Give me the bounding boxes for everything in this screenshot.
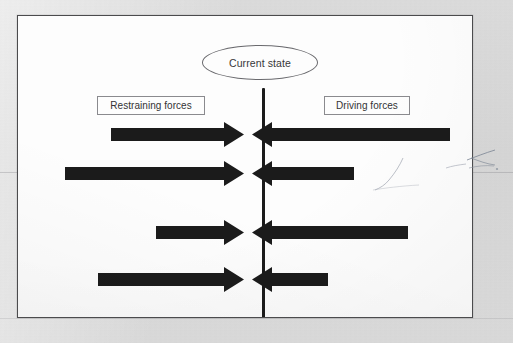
restraining-arrow-4: [98, 267, 244, 292]
driving-forces-box: Driving forces: [324, 96, 410, 115]
scan-band-lower: [0, 318, 513, 319]
pen-mark-artifact-inner: [373, 154, 443, 199]
restraining-arrow-2: [65, 161, 244, 186]
driving-arrow-3: [252, 220, 408, 245]
scanned-page: Current state Restraining forces Driving…: [0, 0, 513, 343]
current-state-label: Current state: [229, 57, 291, 69]
driving-arrow-1: [252, 122, 450, 147]
restraining-arrow-3: [156, 220, 244, 245]
restraining-forces-box: Restraining forces: [97, 96, 205, 115]
diagram-frame: Current state Restraining forces Driving…: [17, 15, 473, 318]
driving-arrow-2: [252, 161, 354, 186]
driving-arrow-4: [252, 267, 328, 292]
restraining-arrow-1: [111, 122, 244, 147]
restraining-forces-label: Restraining forces: [110, 100, 192, 111]
current-state-ellipse: Current state: [202, 45, 318, 80]
driving-forces-label: Driving forces: [336, 100, 398, 111]
